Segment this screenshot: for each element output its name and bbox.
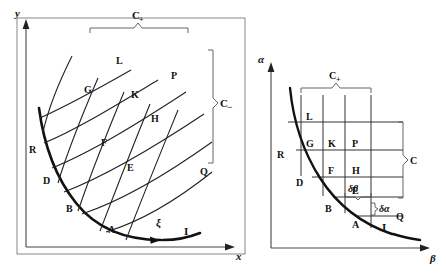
left-node-A: A	[108, 224, 116, 235]
left-brace-Cplus	[90, 23, 188, 33]
left-node-H: H	[151, 113, 159, 124]
left-char-family-Cplus	[43, 56, 178, 240]
left-node-D: D	[43, 175, 50, 186]
right-label-C: C	[410, 155, 417, 166]
left-node-R: R	[29, 144, 37, 155]
right-node-G: G	[306, 138, 314, 149]
left-axis-label-y: y	[13, 7, 20, 19]
right-label-deltaalpha: δα	[379, 203, 390, 214]
right-curve-I-tail	[393, 234, 420, 240]
right-node-E: E	[352, 185, 359, 196]
left-node-B: B	[66, 203, 73, 214]
right-axis-label-beta: β	[429, 252, 436, 264]
right-node-R: R	[277, 149, 285, 160]
left-node-P: P	[171, 70, 177, 81]
right-label-Cplus-sub: +	[336, 75, 341, 84]
right-node-F: F	[328, 165, 334, 176]
left-node-F: F	[101, 137, 107, 148]
left-x-axis-arrow	[225, 244, 235, 251]
right-axis-label-alpha: α	[258, 53, 265, 65]
left-curve-I-tail	[163, 233, 200, 240]
left-label-Cplus-sub: +	[139, 15, 144, 24]
left-y-axis-arrow	[23, 19, 30, 29]
left-curve-direction-arrow	[150, 236, 160, 243]
right-brace-Cplus	[301, 83, 371, 93]
right-node-D: D	[296, 177, 303, 188]
right-node-H: H	[352, 165, 360, 176]
right-node-Q: Q	[396, 211, 404, 222]
left-curve-I	[39, 108, 161, 240]
left-label-xi: ξ	[156, 216, 161, 229]
right-node-P: P	[352, 138, 358, 149]
left-node-L: L	[116, 55, 123, 66]
figure-container: C + C − L P K G H F E R D B A Q ξ I y x	[0, 0, 446, 274]
right-node-A: A	[352, 219, 360, 230]
left-label-I: I	[184, 225, 188, 237]
right-node-B: B	[325, 203, 332, 214]
right-panel: C + C δβ δα L G K P R F H D E B A Q I α	[240, 0, 446, 274]
left-panel: C + C − L P K G H F E R D B A Q ξ I y x	[0, 0, 250, 274]
right-node-K: K	[328, 138, 336, 149]
left-label-Cminus-sub: −	[227, 102, 232, 112]
left-bracket-Cminus	[208, 50, 218, 163]
right-bracket-deltaalpha	[371, 203, 378, 215]
left-panel-frame	[17, 18, 245, 254]
right-node-L: L	[306, 111, 313, 122]
right-label-I: I	[382, 221, 386, 233]
right-curve-I	[290, 88, 392, 234]
left-node-K: K	[131, 89, 139, 100]
left-node-G: G	[84, 84, 92, 95]
right-bracket-C	[398, 122, 408, 198]
left-node-E: E	[127, 162, 134, 173]
left-node-Q: Q	[200, 166, 208, 177]
right-beta-axis-arrow	[420, 245, 430, 252]
right-alpha-axis-arrow	[268, 62, 275, 72]
